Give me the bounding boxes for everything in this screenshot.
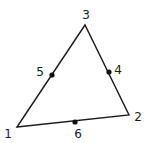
node-5-dot — [49, 72, 54, 77]
triangle-outline — [17, 25, 129, 127]
node-4-dot — [106, 69, 111, 74]
triangle-diagram: 1 2 3 4 5 6 — [0, 0, 149, 143]
node-label-6: 6 — [74, 127, 82, 141]
vertex-label-2: 2 — [134, 110, 142, 124]
node-label-4: 4 — [114, 63, 122, 77]
vertex-label-3: 3 — [82, 8, 90, 22]
node-6-dot — [72, 119, 77, 124]
vertex-label-1: 1 — [4, 127, 12, 141]
node-label-5: 5 — [36, 65, 44, 79]
